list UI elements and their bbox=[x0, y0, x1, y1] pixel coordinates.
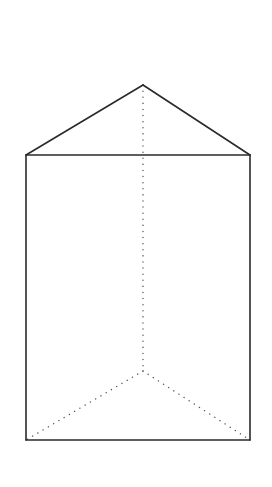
triangular-prism-diagram bbox=[0, 0, 272, 487]
visible-edges bbox=[26, 85, 250, 440]
top-right-slant-edge bbox=[143, 85, 250, 155]
top-left-slant-edge bbox=[26, 85, 143, 155]
bottom-right-slant-edge bbox=[143, 371, 250, 440]
hidden-edges bbox=[26, 85, 250, 440]
bottom-left-slant-edge bbox=[26, 371, 143, 440]
